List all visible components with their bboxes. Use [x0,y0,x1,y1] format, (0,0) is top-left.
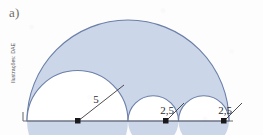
center-point-small-2 [221,118,227,124]
radius-label-small-1: 2,5 [160,104,174,116]
illustration-credit-text: Ilustrações: DAE [10,37,16,89]
item-letter-label: a) [9,5,20,21]
radius-label-large: 5 [93,93,99,105]
radius-label-small-2: 2,5 [218,104,232,116]
semicircles-diagram: 5 2,5 2,5 [0,0,263,135]
geometry-figure: a) Ilustrações: DAE 5 2,5 2,5 [0,0,263,135]
center-point-small-1 [163,118,169,124]
center-point-large [75,118,81,124]
